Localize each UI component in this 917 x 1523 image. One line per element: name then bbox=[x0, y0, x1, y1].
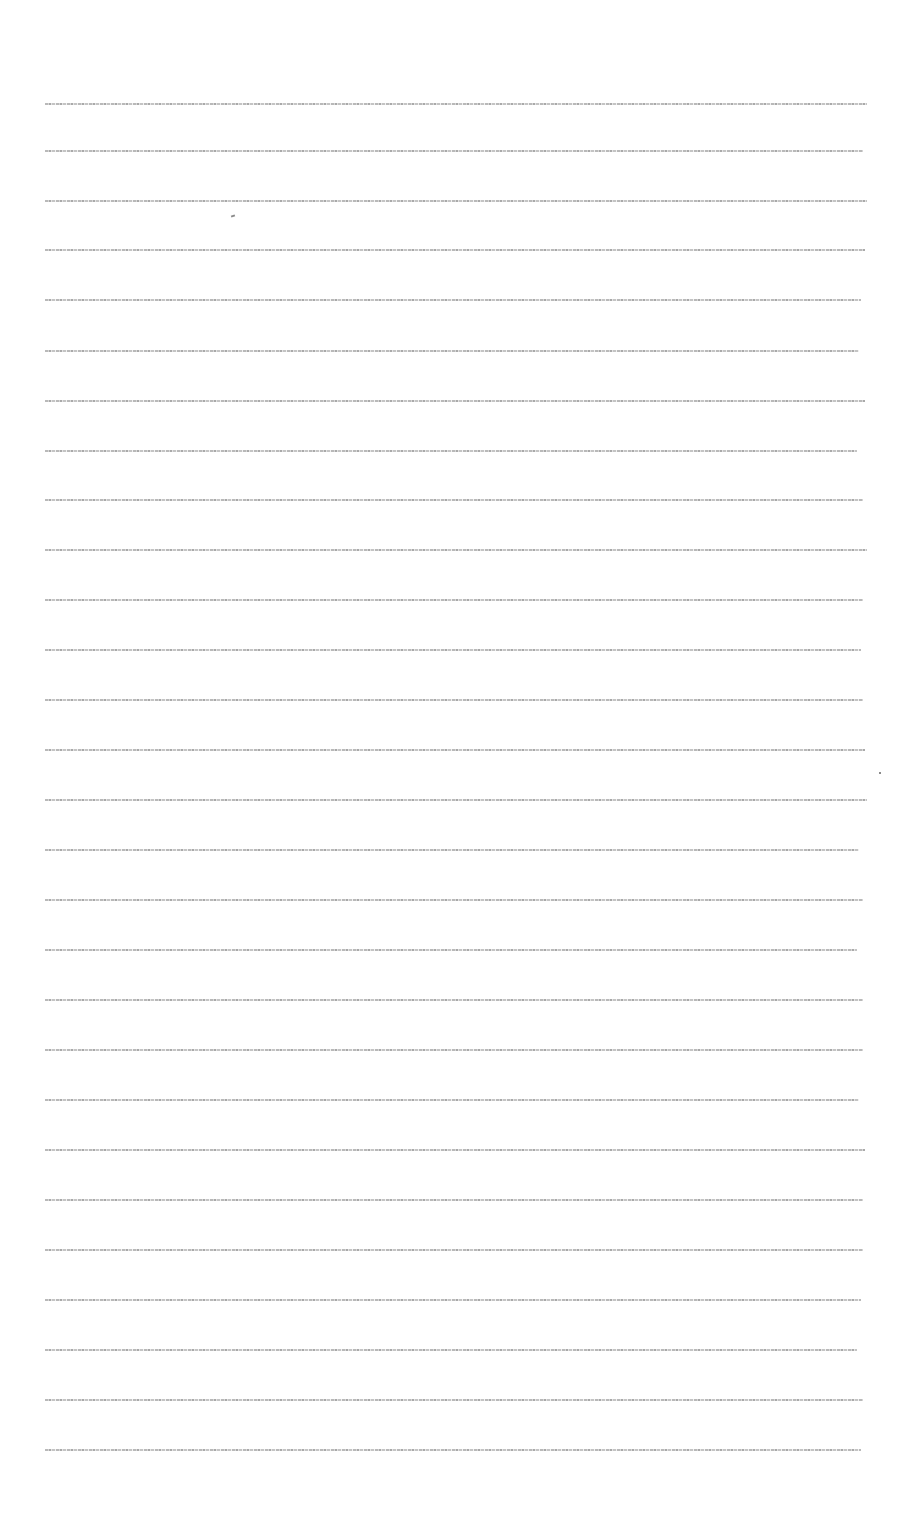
text-line-ink bbox=[45, 1149, 865, 1151]
text-line: (illegible) bbox=[45, 1248, 867, 1251]
text-line: (illegible) bbox=[45, 248, 867, 251]
text-line-ink bbox=[45, 999, 863, 1001]
text-line: (illegible) bbox=[45, 798, 867, 801]
text-line: (illegible) bbox=[45, 498, 867, 501]
text-line-ink bbox=[45, 849, 859, 851]
text-line-ink bbox=[45, 1099, 859, 1101]
text-line: (illegible) bbox=[45, 1398, 867, 1401]
text-line-ink bbox=[45, 549, 867, 551]
stray-mark bbox=[879, 772, 881, 774]
text-line: (illegible) bbox=[45, 648, 867, 651]
text-line-ink bbox=[45, 249, 865, 251]
text-line-ink bbox=[45, 899, 863, 901]
text-line-ink bbox=[45, 499, 863, 501]
text-line: (illegible) bbox=[45, 1098, 867, 1101]
text-line: (illegible) bbox=[45, 948, 867, 951]
text-line-ink bbox=[45, 749, 865, 751]
text-line-ink bbox=[45, 450, 857, 452]
text-line-ink bbox=[45, 1249, 863, 1251]
text-line-ink bbox=[45, 1299, 861, 1301]
text-line: (illegible) bbox=[45, 898, 867, 901]
text-line-ink bbox=[45, 649, 861, 651]
text-line: (illegible) bbox=[45, 102, 867, 105]
text-line-ink bbox=[45, 599, 863, 601]
text-line: (illegible) bbox=[45, 848, 867, 851]
text-line: (illegible) bbox=[45, 1148, 867, 1151]
text-line: (illegible) bbox=[45, 1198, 867, 1201]
text-line-ink bbox=[45, 1349, 857, 1351]
text-line: (illegible) bbox=[45, 1448, 867, 1451]
text-line-ink bbox=[45, 350, 859, 352]
text-line: (illegible) bbox=[45, 748, 867, 751]
text-line: (illegible) bbox=[45, 298, 867, 301]
text-line-ink bbox=[45, 1049, 863, 1051]
text-line-ink bbox=[45, 1399, 863, 1401]
document-page: (illegible)(illegible)(illegible)(illegi… bbox=[0, 0, 917, 1523]
text-line: (illegible) bbox=[45, 1048, 867, 1051]
text-line: (illegible) bbox=[45, 199, 867, 202]
text-line: (illegible) bbox=[45, 1348, 867, 1351]
text-line-ink bbox=[45, 150, 863, 152]
text-line-ink bbox=[45, 103, 867, 105]
text-line: (illegible) bbox=[45, 598, 867, 601]
text-line: (illegible) bbox=[45, 149, 867, 152]
text-line: (illegible) bbox=[45, 548, 867, 551]
text-line: (illegible) bbox=[45, 349, 867, 352]
text-line: (illegible) bbox=[45, 698, 867, 701]
text-line-ink bbox=[45, 299, 861, 301]
text-line: (illegible) bbox=[45, 449, 867, 452]
text-line-ink bbox=[45, 949, 857, 951]
text-line-ink bbox=[45, 699, 863, 701]
text-line-ink bbox=[45, 200, 867, 202]
text-line-ink bbox=[45, 400, 865, 402]
text-line: (illegible) bbox=[45, 399, 867, 402]
text-line: (illegible) bbox=[45, 1298, 867, 1301]
text-line-ink bbox=[45, 799, 867, 801]
text-line-ink bbox=[45, 1199, 863, 1201]
text-line: (illegible) bbox=[45, 998, 867, 1001]
text-line-ink bbox=[45, 1449, 861, 1451]
